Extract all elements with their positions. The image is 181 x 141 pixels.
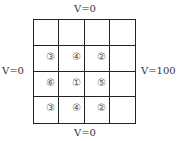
- right-boundary-label: V=100: [141, 65, 176, 76]
- cell-label: ②: [97, 102, 106, 113]
- top-boundary-label: V=0: [74, 3, 96, 14]
- grid-cell: [85, 20, 110, 46]
- grid-cell: [110, 97, 135, 123]
- cell-label: ②: [97, 51, 106, 62]
- bottom-boundary-label: V=0: [74, 127, 96, 138]
- cell-label: ①: [72, 77, 81, 88]
- left-boundary-label: V=0: [2, 65, 24, 76]
- grid-cell: [59, 20, 84, 46]
- cell-label: ⑤: [97, 77, 106, 88]
- grid-cell: ②: [85, 46, 110, 72]
- grid-cell: ③: [34, 97, 59, 123]
- potential-grid: ③ ④ ② ⑥ ① ⑤ ③ ④ ②: [33, 19, 136, 124]
- grid-cell: [34, 20, 59, 46]
- cell-label: ③: [46, 102, 55, 113]
- grid-cell: ④: [59, 46, 84, 72]
- grid-cell: ⑤: [85, 72, 110, 98]
- grid-cell: [110, 46, 135, 72]
- grid-cell: ④: [59, 97, 84, 123]
- grid-cell: ③: [34, 46, 59, 72]
- cell-label: ④: [72, 51, 81, 62]
- grid-cell: ⑥: [34, 72, 59, 98]
- grid-cell: ①: [59, 72, 84, 98]
- grid-cell: [110, 72, 135, 98]
- cell-label: ③: [46, 51, 55, 62]
- grid-cell: ②: [85, 97, 110, 123]
- cell-label: ⑥: [46, 77, 55, 88]
- grid-cell: [110, 20, 135, 46]
- cell-label: ④: [72, 102, 81, 113]
